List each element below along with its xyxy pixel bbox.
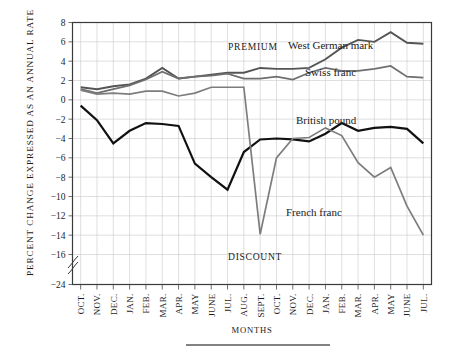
x-tick-label: JUL. xyxy=(223,294,233,313)
x-tick-label: FEB. xyxy=(141,294,151,314)
annotation-premium: PREMIUM xyxy=(228,41,278,52)
y-tick-label: 8 xyxy=(61,18,66,28)
annotation-swiss-franc: Swiss franc xyxy=(305,66,356,78)
x-tick-label: NOV. xyxy=(92,294,102,316)
x-tick-label: NOV. xyxy=(288,294,298,316)
x-tick-label: MAY xyxy=(386,293,396,314)
x-tick-label: OCT. xyxy=(76,294,86,315)
y-tick-label: −8 xyxy=(55,173,65,183)
x-tick-label: APR. xyxy=(174,294,184,315)
x-tick-label: DEC. xyxy=(305,294,315,315)
y-tick-label: −12 xyxy=(51,211,66,221)
x-tick-label: JUNE xyxy=(207,293,217,316)
chart-figure: 86420−2−4−6−8−10−12−14−16−24 OCT.NOV.DEC… xyxy=(0,0,455,355)
annotation-discount: DISCOUNT xyxy=(228,251,282,262)
y-tick-label: −24 xyxy=(51,280,66,290)
x-axis-title: MONTHS xyxy=(231,325,272,335)
x-tick-label: JUL. xyxy=(419,294,429,313)
y-axis-ticks: 86420−2−4−6−8−10−12−14−16−24 xyxy=(51,18,73,290)
x-tick-label: APR. xyxy=(370,294,380,315)
y-axis-title: PERCENT CHANGE EXPRESSED AS AN ANNUAL RA… xyxy=(25,9,35,276)
y-tick-label: −4 xyxy=(55,134,65,144)
x-tick-label: MAY xyxy=(190,293,200,314)
data-series-group xyxy=(81,32,424,235)
y-tick-label: 4 xyxy=(61,57,66,67)
annotation-west-german-mark: West German mark xyxy=(288,39,374,51)
y-tick-label: 2 xyxy=(61,76,66,86)
x-tick-label: MAR. xyxy=(353,294,363,318)
annotation-british-pound: British pound xyxy=(296,114,357,126)
y-tick-label: −2 xyxy=(55,115,65,125)
x-tick-label: FEB. xyxy=(337,294,347,314)
y-tick-label: −16 xyxy=(51,250,66,260)
x-tick-label: MAR. xyxy=(158,294,168,318)
series-line-french-franc xyxy=(81,87,424,235)
x-tick-label: OCT. xyxy=(272,294,282,315)
x-tick-label: JAN. xyxy=(321,294,331,314)
y-tick-label: −6 xyxy=(55,153,65,163)
y-tick-label: −14 xyxy=(51,231,66,241)
x-tick-label: JUNE xyxy=(402,293,412,316)
y-tick-label: 0 xyxy=(61,95,66,105)
y-tick-label: 6 xyxy=(61,37,66,47)
chart-svg: 86420−2−4−6−8−10−12−14−16−24 OCT.NOV.DEC… xyxy=(0,0,455,355)
annotation-french-franc: French franc xyxy=(286,206,342,218)
x-tick-label: DEC. xyxy=(109,294,119,315)
y-tick-label: −10 xyxy=(51,192,66,202)
x-tick-label: SEPT. xyxy=(256,294,266,318)
x-tick-label: JAN. xyxy=(125,294,135,314)
x-tick-label: AUG. xyxy=(239,294,249,317)
x-axis-ticks: OCT.NOV.DEC.JAN.FEB.MAR.APR.MAYJUNEJUL.A… xyxy=(76,285,429,318)
